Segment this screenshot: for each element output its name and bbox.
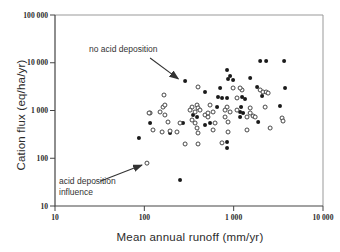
data-point-filled (283, 86, 287, 90)
data-point-filled (203, 90, 207, 94)
data-point-filled (137, 136, 141, 140)
x-tick-label: 100 (139, 213, 151, 222)
data-point-open (195, 126, 199, 130)
data-point-filled (148, 121, 152, 125)
y-tick-label: 10 000 (27, 58, 48, 67)
data-point-filled (216, 95, 220, 99)
chart-plot-area: 101001 00010 000100 000101001 00010 000 (0, 0, 340, 252)
data-point-open (228, 110, 232, 114)
data-point-open (163, 103, 167, 107)
data-point-open (178, 121, 182, 125)
data-point-filled (215, 105, 219, 109)
data-point-open (183, 142, 187, 146)
data-point-open (168, 129, 172, 133)
data-point-open (211, 128, 215, 132)
data-point-filled (258, 59, 262, 63)
data-point-open (231, 86, 235, 90)
data-point-open (226, 120, 230, 124)
data-point-open (163, 113, 167, 117)
data-point-open (268, 126, 272, 130)
data-point-open (188, 108, 192, 112)
data-point-filled (195, 115, 199, 119)
data-point-filled (225, 96, 229, 100)
data-point-filled (225, 68, 229, 72)
annotation-no-acid-deposition: no acid deposition (89, 44, 158, 55)
annotation-arrow (150, 58, 178, 79)
x-axis-title: Mean annual runoff (mm/yr) (0, 231, 340, 243)
data-point-open (248, 111, 252, 115)
data-point-filled (239, 105, 243, 109)
data-point-filled (231, 78, 235, 82)
data-point-open (226, 130, 230, 134)
data-point-filled (183, 79, 187, 83)
data-point-filled (264, 59, 268, 63)
data-point-open (145, 161, 149, 165)
data-point-open (198, 108, 202, 112)
data-point-open (253, 115, 257, 119)
data-point-open (166, 120, 170, 124)
data-point-open (193, 110, 197, 114)
y-tick-label: 100 (37, 154, 49, 163)
data-point-open (208, 103, 212, 107)
data-point-filled (225, 140, 229, 144)
data-point-open (196, 85, 200, 89)
data-point-open (193, 121, 197, 125)
y-tick-label: 10 (40, 202, 48, 211)
data-point-filled (278, 104, 282, 108)
data-point-filled (225, 146, 229, 150)
data-point-filled (282, 59, 286, 63)
data-point-open (235, 96, 239, 100)
data-point-open (248, 106, 252, 110)
data-point-filled (238, 115, 242, 119)
data-point-filled (228, 74, 232, 78)
data-point-open (223, 115, 227, 119)
x-tick-label: 10 000 (313, 213, 334, 222)
data-point-filled (243, 97, 247, 101)
data-point-filled (256, 120, 260, 124)
data-point-filled (248, 76, 252, 80)
data-point-filled (218, 86, 222, 90)
y-tick-label: 1 000 (31, 106, 48, 115)
data-point-open (235, 108, 239, 112)
x-tick-label: 1 000 (225, 213, 242, 222)
data-point-filled (208, 121, 212, 125)
data-point-open (266, 91, 270, 95)
data-point-open (147, 111, 151, 115)
data-point-open (238, 86, 242, 90)
data-point-filled (203, 123, 207, 127)
data-point-filled (220, 96, 224, 100)
data-point-open (263, 105, 267, 109)
data-point-filled (260, 94, 264, 98)
data-point-open (160, 130, 164, 134)
y-axis-title: Cation flux (eq/ha/yr) (15, 35, 27, 195)
scatter-figure: 101001 00010 000100 000101001 00010 000 … (0, 0, 340, 252)
data-point-filled (178, 178, 182, 182)
data-point-open (196, 131, 200, 135)
data-point-open (206, 111, 210, 115)
data-point-open (220, 141, 224, 145)
data-point-open (245, 128, 249, 132)
data-point-open (223, 108, 227, 112)
data-point-open (196, 142, 200, 146)
data-point-open (151, 128, 155, 132)
x-tick-label: 10 (51, 213, 59, 222)
annotation-acid-deposition-influence: acid deposition influence (59, 176, 125, 198)
data-point-open (206, 115, 210, 119)
data-point-open (158, 110, 162, 114)
data-point-open (175, 130, 179, 134)
data-point-open (162, 93, 166, 97)
data-point-open (281, 119, 285, 123)
data-point-open (211, 110, 215, 114)
y-tick-label: 100 000 (23, 11, 48, 20)
data-point-open (213, 121, 217, 125)
data-point-open (245, 115, 249, 119)
